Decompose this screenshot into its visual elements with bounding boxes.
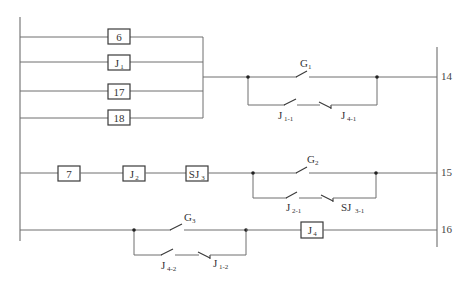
svg-text:7: 7 bbox=[66, 168, 72, 180]
svg-text:4-1: 4-1 bbox=[347, 115, 357, 123]
input-box-6: 6 bbox=[108, 29, 130, 44]
svg-text:SJ: SJ bbox=[341, 201, 352, 213]
svg-text:3-1: 3-1 bbox=[355, 207, 365, 215]
svg-text:4: 4 bbox=[313, 230, 317, 238]
svg-text:2: 2 bbox=[315, 159, 319, 167]
contact-j1-2-icon bbox=[198, 252, 210, 258]
contact-g1-icon bbox=[296, 71, 307, 77]
row-number-14: 14 bbox=[441, 70, 453, 82]
input-box-j1: J 1 bbox=[108, 55, 130, 71]
contact-j4-2-icon bbox=[161, 249, 173, 255]
row-number-16: 16 bbox=[441, 223, 453, 235]
svg-text:2: 2 bbox=[135, 174, 139, 182]
contact-g2-icon bbox=[296, 167, 307, 173]
svg-text:1-1: 1-1 bbox=[284, 115, 294, 123]
svg-text:1-2: 1-2 bbox=[219, 263, 229, 271]
svg-text:G: G bbox=[300, 57, 308, 69]
svg-text:G: G bbox=[184, 211, 192, 223]
svg-text:3: 3 bbox=[201, 174, 205, 182]
contact-j4-1-icon bbox=[319, 102, 331, 108]
rung-14: 6 J 1 17 18 G 1 J 1-1 J bbox=[20, 29, 453, 125]
svg-text:SJ: SJ bbox=[189, 168, 200, 180]
svg-text:4-2: 4-2 bbox=[167, 265, 177, 273]
series-box-7: 7 bbox=[58, 166, 80, 181]
contact-g3-icon bbox=[170, 224, 182, 230]
svg-text:G: G bbox=[307, 153, 315, 165]
row-number-15: 15 bbox=[441, 166, 453, 178]
input-box-17: 17 bbox=[108, 84, 130, 99]
svg-text:2-1: 2-1 bbox=[292, 207, 302, 215]
series-box-j2: J 2 bbox=[123, 166, 145, 182]
contact-j1-1-icon bbox=[284, 99, 296, 105]
svg-text:J: J bbox=[286, 201, 291, 213]
svg-text:J: J bbox=[130, 168, 135, 180]
contact-sj3-1-icon bbox=[321, 195, 333, 201]
svg-text:17: 17 bbox=[114, 86, 126, 98]
rung-16: G 3 J 4-2 J 1-2 J 4 16 bbox=[20, 211, 453, 273]
svg-text:J: J bbox=[115, 57, 120, 69]
coil-j4: J 4 bbox=[301, 222, 323, 238]
rung-15: 7 J 2 SJ 3 G 2 J 2-1 SJ 3-1 bbox=[20, 153, 453, 215]
svg-text:J: J bbox=[308, 224, 313, 236]
svg-text:3: 3 bbox=[192, 217, 196, 225]
svg-text:6: 6 bbox=[116, 31, 122, 43]
svg-text:18: 18 bbox=[114, 112, 126, 124]
input-box-18: 18 bbox=[108, 110, 130, 125]
svg-text:1: 1 bbox=[120, 63, 124, 71]
ladder-diagram: 6 J 1 17 18 G 1 J 1-1 J bbox=[0, 0, 462, 286]
svg-text:J: J bbox=[161, 259, 166, 271]
series-box-sj3: SJ 3 bbox=[186, 166, 208, 182]
svg-text:1: 1 bbox=[308, 63, 312, 71]
svg-text:J: J bbox=[341, 109, 346, 121]
svg-text:J: J bbox=[278, 109, 283, 121]
svg-text:J: J bbox=[213, 257, 218, 269]
contact-j2-1-icon bbox=[286, 192, 297, 198]
